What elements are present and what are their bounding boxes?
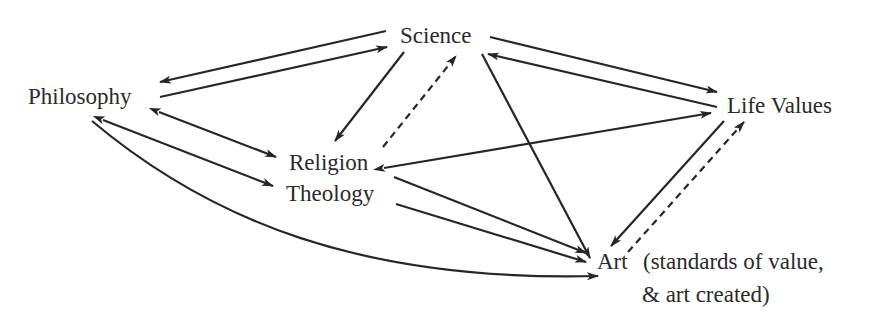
node-science: Science xyxy=(400,23,472,48)
node-religion: Religion xyxy=(289,150,369,175)
node-theology: Theology xyxy=(286,181,375,206)
node-life-values: Life Values xyxy=(727,93,832,118)
edge-religion-life-values-bidirectional xyxy=(384,113,711,168)
edge-philosophy-theology-bidirectional xyxy=(103,120,273,186)
edge-philosophy-to-science xyxy=(160,47,387,97)
edge-religion-to-art xyxy=(394,177,586,253)
relationship-diagram: Science Philosophy Life Values Religion … xyxy=(0,0,886,333)
node-art-note-line2: & art created) xyxy=(642,282,770,307)
edge-life-values-to-art xyxy=(611,121,724,246)
edge-theology-to-art xyxy=(396,204,586,262)
edge-science-to-philosophy xyxy=(160,31,386,82)
edge-science-to-art xyxy=(482,54,590,258)
node-philosophy: Philosophy xyxy=(28,84,132,109)
edge-philosophy-religion-bidirectional xyxy=(159,112,276,157)
edge-science-to-life-values xyxy=(490,37,717,92)
node-art: Art xyxy=(597,249,628,274)
node-art-note-line1: (standards of value, xyxy=(643,249,824,274)
edge-life-values-to-science xyxy=(488,54,717,107)
edge-religion-to-science-dashed xyxy=(383,56,456,147)
edge-science-to-religion xyxy=(335,52,404,141)
edge-art-to-life-values-dashed xyxy=(628,122,744,252)
